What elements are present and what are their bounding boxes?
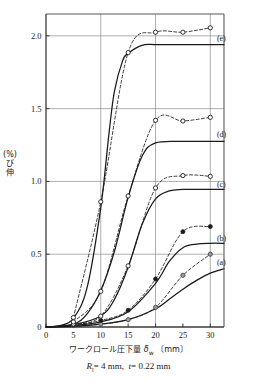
- data-point-marker: [181, 173, 185, 177]
- figure-container: 00.51.01.52.0051015202530(e)(d)(c)(b)(a)…: [0, 0, 257, 382]
- data-point-marker: [208, 26, 212, 30]
- data-point-marker: [153, 305, 157, 309]
- data-point-marker: [126, 50, 130, 54]
- y-axis-label-char-1: び: [2, 159, 18, 168]
- data-point-marker: [181, 230, 185, 234]
- data-point-marker: [153, 30, 157, 34]
- series-line: [73, 115, 210, 322]
- x-tick-label: 20: [151, 330, 160, 340]
- series-line: [73, 28, 210, 318]
- data-point-marker: [126, 194, 130, 198]
- elongation-vs-roll-reduction-chart: 00.51.01.52.0051015202530(e)(d)(c)(b)(a): [0, 0, 257, 382]
- caption-R-value: = 4 mm,: [94, 361, 124, 371]
- y-axis-label: (%) び 伸: [2, 150, 18, 177]
- data-point-marker: [154, 277, 158, 281]
- data-point-marker: [208, 174, 212, 178]
- y-tick-label: 0.5: [31, 249, 42, 259]
- series-line: [46, 141, 224, 327]
- x-axis-label-subscript: w: [149, 349, 154, 356]
- x-tick-label: 30: [206, 330, 215, 340]
- data-point-marker: [99, 314, 103, 318]
- curve-label-b: (b): [217, 234, 227, 243]
- data-point-marker: [208, 252, 212, 256]
- series-line: [73, 226, 210, 325]
- data-point-marker: [208, 115, 212, 119]
- data-point-marker: [71, 320, 75, 324]
- x-axis-label-unit: 〔mm〕: [156, 345, 188, 354]
- data-point-marker: [181, 119, 185, 123]
- x-tick-label: 0: [44, 330, 48, 340]
- y-axis-label-char-0: (%): [2, 150, 18, 159]
- curve-annotations: (e)(d)(c)(b)(a): [217, 34, 227, 267]
- data-point-marker: [71, 315, 75, 319]
- figure-caption: Rl= 4 mm, t= 0.22 mm: [0, 361, 257, 373]
- data-markers: [71, 26, 212, 328]
- data-point-marker: [99, 289, 103, 293]
- series-line: [46, 243, 224, 327]
- curve-label-e: (e): [217, 34, 226, 43]
- curve-label-d: (d): [217, 130, 227, 139]
- y-tick-label: 2.0: [31, 31, 42, 41]
- x-axis-label-text: ワークロール圧下量: [69, 345, 141, 354]
- x-tick-label: 25: [179, 330, 188, 340]
- y-tick-label: 1.0: [31, 176, 42, 186]
- data-point-marker: [126, 318, 130, 322]
- data-point-marker: [181, 273, 185, 277]
- caption-t-value: = 0.22 mm: [131, 361, 170, 371]
- y-axis-label-char-2: 伸: [2, 168, 18, 177]
- x-tick-label: 5: [71, 330, 75, 340]
- data-curves: [46, 28, 224, 327]
- series-line: [46, 44, 224, 327]
- data-point-marker: [153, 118, 157, 122]
- x-tick-label: 10: [97, 330, 106, 340]
- y-tick-label: 0: [37, 322, 41, 332]
- data-point-marker: [153, 186, 157, 190]
- data-point-marker: [208, 225, 212, 229]
- x-tick-label: 15: [124, 330, 133, 340]
- data-point-marker: [126, 264, 130, 268]
- curve-label-c: (c): [217, 180, 226, 189]
- y-tick-label: 1.5: [31, 104, 42, 114]
- axis-tick-labels: 00.51.01.52.0051015202530: [31, 31, 215, 340]
- x-axis-label: ワークロール圧下量 δw 〔mm〕: [0, 343, 257, 356]
- data-point-marker: [99, 200, 103, 204]
- data-point-marker: [99, 318, 103, 322]
- curve-label-a: (a): [217, 258, 226, 267]
- data-point-marker: [181, 30, 185, 34]
- data-point-marker: [126, 308, 130, 312]
